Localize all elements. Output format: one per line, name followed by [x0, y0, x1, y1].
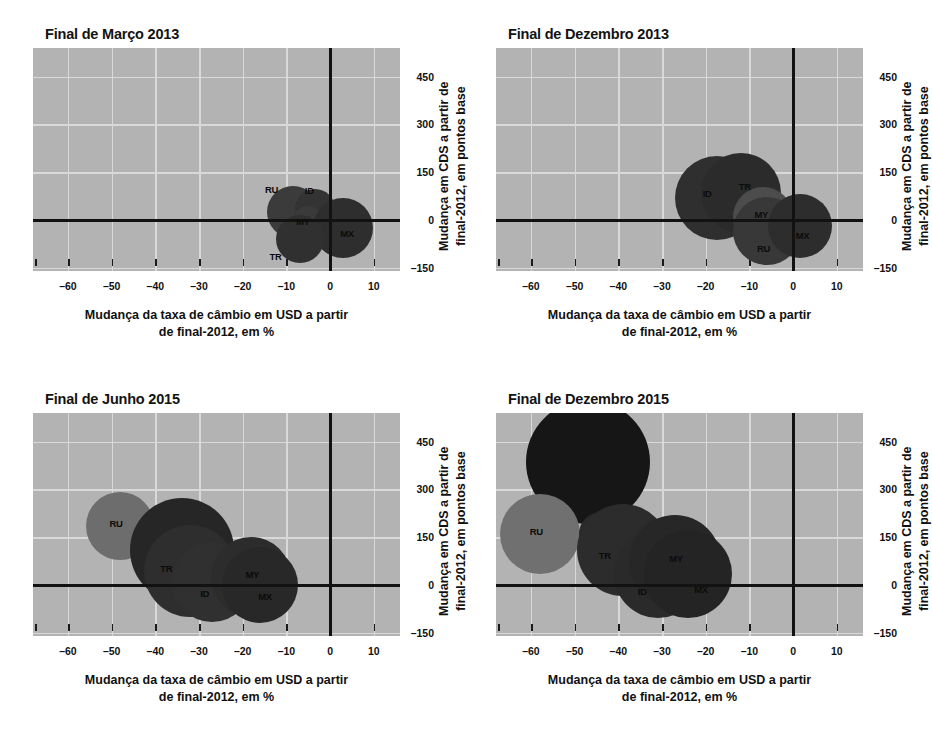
bubble-label-tr: TR [270, 251, 282, 262]
y-axis-title-line1: Mudança em CDS a partir de [436, 50, 452, 283]
gridline-vertical [243, 48, 245, 271]
gridline-vertical [68, 48, 70, 271]
bubble-label-mx: MX [796, 230, 810, 241]
chart-panel-1: Final de Março 2013RUIDMYMXTR–60–50–40–3… [0, 0, 463, 365]
x-axis-title-line1: Mudança da taxa de câmbio em USD a parti… [13, 672, 420, 689]
axis-zero-vertical [329, 413, 332, 636]
x-tick-mark [68, 259, 70, 266]
x-axis-title-line2: de final-2012, em % [13, 324, 420, 341]
x-tick-mark [243, 259, 245, 266]
gridline-vertical [837, 48, 839, 271]
x-tick-label: –10 [741, 645, 759, 657]
gridline-horizontal [496, 77, 863, 79]
x-tick-label: –10 [741, 280, 759, 292]
x-tick-label: –20 [234, 645, 252, 657]
y-tick-label: 450 [867, 71, 897, 83]
x-tick-label: –10 [278, 645, 296, 657]
x-axis-title: Mudança da taxa de câmbio em USD a parti… [13, 307, 420, 341]
x-tick-mark [662, 624, 664, 631]
x-axis-title: Mudança da taxa de câmbio em USD a parti… [13, 672, 420, 706]
x-tick-mark [243, 624, 245, 631]
axis-zero-horizontal [33, 219, 400, 222]
gridline-vertical [837, 413, 839, 636]
x-axis-title-line1: Mudança da taxa de câmbio em USD a parti… [476, 672, 883, 689]
x-tick-mark [199, 624, 201, 631]
x-tick-label: 0 [327, 645, 333, 657]
plot-area: RUIDMYMXTR [33, 48, 400, 271]
x-tick-label: 10 [831, 280, 843, 292]
gridline-vertical [112, 48, 114, 271]
panel-title: Final de Junho 2015 [45, 391, 180, 407]
axis-zero-horizontal [496, 584, 863, 587]
x-tick-label: 0 [790, 280, 796, 292]
x-axis-title-line1: Mudança da taxa de câmbio em USD a parti… [13, 307, 420, 324]
bubble-label-my: MY [245, 569, 259, 580]
y-tick-label: 150 [867, 531, 897, 543]
bubble-label-id: ID [305, 185, 314, 196]
bubble-label-ru: RU [530, 526, 543, 537]
x-tick-label: 10 [368, 280, 380, 292]
axis-zero-vertical [792, 48, 795, 271]
gridline-horizontal [33, 77, 400, 79]
y-tick-label: 0 [404, 579, 434, 591]
bubble-label-id: ID [638, 586, 647, 597]
x-tick-mark [749, 624, 751, 631]
x-tick-label: 10 [831, 645, 843, 657]
x-tick-label: –20 [697, 645, 715, 657]
gridline-horizontal [496, 124, 863, 126]
axis-zero-horizontal [496, 219, 863, 222]
axis-zero-vertical [792, 413, 795, 636]
plot-area: IDTRMYRUMX [496, 48, 863, 271]
x-tick-mark [155, 259, 157, 266]
x-tick-mark [618, 259, 620, 266]
x-axis-title: Mudança da taxa de câmbio em USD a parti… [476, 672, 883, 706]
x-tick-label: –60 [522, 280, 540, 292]
y-tick-label: 300 [404, 483, 434, 495]
plot-area: RUTRIDMYMX [496, 413, 863, 636]
bubble-label-mx: MX [694, 584, 708, 595]
x-tick-mark [374, 259, 376, 266]
x-tick-mark-edge [498, 624, 500, 631]
x-tick-label: –50 [566, 645, 584, 657]
panel-title: Final de Dezembro 2015 [508, 391, 669, 407]
y-tick-label: 450 [404, 71, 434, 83]
y-tick-label: 450 [867, 436, 897, 448]
x-tick-mark [68, 624, 70, 631]
gridline-vertical [749, 413, 751, 636]
gridline-vertical [618, 48, 620, 271]
bubble-mx [768, 194, 832, 258]
x-tick-label: –50 [103, 280, 121, 292]
x-tick-mark [706, 259, 708, 266]
y-tick-label: 0 [404, 214, 434, 226]
x-tick-mark [374, 624, 376, 631]
bubble-mx [644, 530, 732, 618]
x-axis-title-line1: Mudança da taxa de câmbio em USD a parti… [476, 307, 883, 324]
x-tick-label: 0 [790, 645, 796, 657]
axis-zero-vertical [329, 48, 332, 271]
y-axis-title-line1: Mudança em CDS a partir de [899, 415, 915, 648]
panel-title: Final de Março 2013 [45, 26, 179, 42]
x-tick-label: –30 [190, 645, 208, 657]
x-tick-mark [662, 259, 664, 266]
bubble-label-ru: RU [109, 518, 122, 529]
x-tick-label: –50 [103, 645, 121, 657]
x-tick-label: –60 [59, 280, 77, 292]
x-tick-mark [706, 624, 708, 631]
x-tick-mark [837, 259, 839, 266]
y-axis-title-line2: final-2012, em pontos base [916, 415, 932, 648]
gridline-vertical [68, 413, 70, 636]
x-tick-label: 10 [368, 645, 380, 657]
x-tick-mark-edge [35, 624, 37, 631]
x-tick-mark-edge [498, 259, 500, 266]
y-tick-label: 300 [867, 118, 897, 130]
x-tick-mark [575, 259, 577, 266]
bubble-label-ru: RU [265, 184, 278, 195]
x-axis-title-line2: de final-2012, em % [476, 324, 883, 341]
x-tick-label: –10 [278, 280, 296, 292]
gridline-vertical [575, 48, 577, 271]
x-tick-label: –40 [610, 280, 628, 292]
y-tick-label: –150 [867, 627, 897, 639]
gridline-vertical [199, 48, 201, 271]
chart-panel-2: Final de Dezembro 2013IDTRMYRUMX–60–50–4… [463, 0, 926, 365]
